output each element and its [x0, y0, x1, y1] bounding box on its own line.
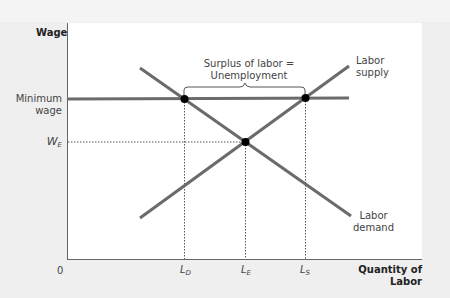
- ls-label: LS: [300, 264, 310, 279]
- le-label: LE: [241, 264, 251, 279]
- chart-canvas: [0, 0, 450, 298]
- surplus-annotation: Surplus of labor = Unemployment: [194, 58, 304, 82]
- ld-label: LD: [180, 264, 191, 279]
- point-ld: [181, 95, 189, 103]
- x-axis-label: Quantity of Labor: [340, 264, 422, 288]
- y-axis-label: Wage: [36, 27, 67, 39]
- labor-supply-label: Labor supply: [356, 55, 389, 79]
- we-label: WE: [2, 136, 62, 151]
- labor-demand-label: Labor demand: [353, 210, 394, 234]
- origin-label: 0: [57, 265, 63, 277]
- point-ls: [302, 94, 310, 102]
- min-wage-label: Minimum wage: [2, 93, 62, 117]
- point-equilibrium: [242, 138, 250, 146]
